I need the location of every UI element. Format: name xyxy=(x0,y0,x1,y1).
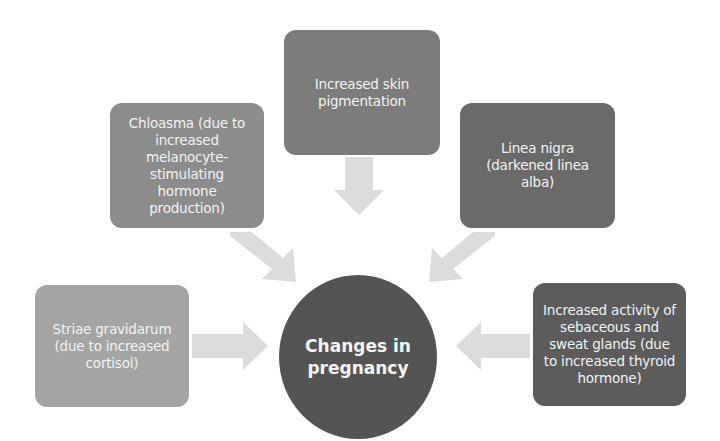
node-label: Increased skin pigmentation xyxy=(302,76,422,110)
arrow-diagonal-down-left-icon xyxy=(429,232,495,282)
node-sebaceous-sweat-glands: Increased activity of sebaceous and swea… xyxy=(533,283,686,406)
center-label-line2: pregnancy xyxy=(305,357,411,379)
arrow-diagonal-down-right-icon xyxy=(230,232,296,282)
node-striae-gravidarum: Striae gravidarum (due to increased cort… xyxy=(35,285,189,407)
arrow-down-icon xyxy=(334,157,384,215)
node-label: Linea nigra (darkened linea alba) xyxy=(479,140,597,191)
node-increased-skin-pigmentation: Increased skin pigmentation xyxy=(284,30,440,155)
node-chloasma: Chloasma (due to increased melanocyte-st… xyxy=(110,103,264,228)
node-label: Increased activity of sebaceous and swea… xyxy=(541,302,678,387)
arrow-left-icon xyxy=(456,322,530,370)
center-node-changes-in-pregnancy: Changes in pregnancy xyxy=(279,275,437,439)
arrow-right-icon xyxy=(192,322,268,370)
node-label: Chloasma (due to increased melanocyte-st… xyxy=(123,115,251,217)
node-label: Striae gravidarum (due to increased cort… xyxy=(44,321,180,372)
center-label-line1: Changes in xyxy=(305,335,411,357)
node-linea-nigra: Linea nigra (darkened linea alba) xyxy=(460,103,615,228)
